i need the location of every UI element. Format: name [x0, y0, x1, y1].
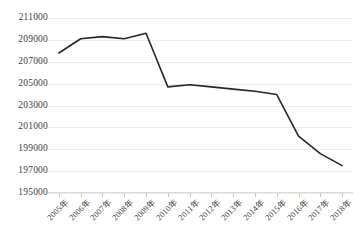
- x-axis-tick: [81, 193, 82, 197]
- y-axis-tick-label: 201000: [0, 122, 48, 132]
- x-axis-tick: [320, 193, 321, 197]
- x-axis-tick: [255, 193, 256, 197]
- x-axis-tick: [211, 193, 212, 197]
- x-axis-tick: [277, 193, 278, 197]
- y-axis-tick-label: 211000: [0, 13, 48, 23]
- x-axis-tick: [59, 193, 60, 197]
- line-chart: 2110002090002070002050002030002010001990…: [0, 0, 361, 238]
- y-axis-tick-label: 205000: [0, 79, 48, 89]
- x-axis-tick: [299, 193, 300, 197]
- x-axis-tick: [102, 193, 103, 197]
- gridline: [48, 193, 353, 194]
- x-axis-tick: [190, 193, 191, 197]
- x-axis-tick: [342, 193, 343, 197]
- series-line: [48, 18, 353, 193]
- plot-area: [48, 18, 353, 193]
- x-axis-tick: [168, 193, 169, 197]
- x-axis-tick: [233, 193, 234, 197]
- x-axis-tick: [146, 193, 147, 197]
- y-axis-tick-label: 209000: [0, 35, 48, 45]
- y-axis-tick-label: 197000: [0, 166, 48, 176]
- y-axis-tick-label: 203000: [0, 101, 48, 111]
- y-axis-tick-label: 207000: [0, 57, 48, 67]
- x-axis-tick: [124, 193, 125, 197]
- y-axis-tick-label: 195000: [0, 188, 48, 198]
- series-polyline: [59, 33, 342, 165]
- y-axis-tick-label: 199000: [0, 144, 48, 154]
